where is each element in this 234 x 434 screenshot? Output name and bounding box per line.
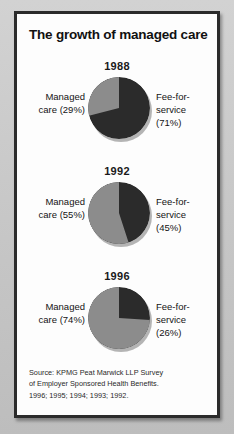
label-line: Managed <box>17 301 85 314</box>
figure-inner: The growth of managed care 1988 Managed … <box>17 14 217 415</box>
label-line: (45%) <box>156 222 217 235</box>
page-title: The growth of managed care <box>29 28 211 43</box>
pie-chart-1988 <box>88 77 150 139</box>
pie-svg-1988 <box>88 77 150 139</box>
pie-label-managed-care-1992: Managed care (55%) <box>17 196 85 222</box>
label-line: care (29%) <box>17 104 85 117</box>
pie-chart-1996 <box>88 287 150 349</box>
pie-label-managed-care-1988: Managed care (29%) <box>17 91 85 117</box>
label-line: service <box>156 104 217 117</box>
label-line: Fee-for- <box>156 301 217 314</box>
label-line: service <box>156 314 217 327</box>
pie-body <box>88 287 150 349</box>
label-line: Fee-for- <box>156 196 217 209</box>
page-background: The growth of managed care 1988 Managed … <box>0 0 234 434</box>
label-line: Managed <box>17 196 85 209</box>
pie-svg-1992 <box>88 182 150 244</box>
pie-panel-1996: 1996 Managed care (74%) Fee-for- <box>17 270 217 374</box>
source-line: of Employer Sponsored Health Benefits. <box>29 378 205 389</box>
pie-label-fee-for-service-1996: Fee-for- service (26%) <box>156 301 217 339</box>
pie-body <box>88 77 150 139</box>
label-line: (26%) <box>156 327 217 340</box>
pie-label-managed-care-1996: Managed care (74%) <box>17 301 85 327</box>
source-note: Source: KPMG Peat Marwick LLP Survey of … <box>29 367 205 401</box>
pie-year-label-1996: 1996 <box>17 270 217 282</box>
pie-panel-1988: 1988 Managed care (29%) Fee-for- <box>17 60 217 164</box>
label-line: care (74%) <box>17 314 85 327</box>
source-line: Source: KPMG Peat Marwick LLP Survey <box>29 367 205 378</box>
figure-frame: The growth of managed care 1988 Managed … <box>14 11 220 418</box>
pie-chart-1992 <box>88 182 150 244</box>
pie-body <box>88 182 150 244</box>
label-line: care (55%) <box>17 209 85 222</box>
pie-label-fee-for-service-1988: Fee-for- service (71%) <box>156 91 217 129</box>
pie-year-label-1992: 1992 <box>17 165 217 177</box>
label-line: (71%) <box>156 117 217 130</box>
pie-panel-1992: 1992 Managed care (55%) Fee-for- <box>17 165 217 269</box>
label-line: Fee-for- <box>156 91 217 104</box>
label-line: Managed <box>17 91 85 104</box>
pie-year-label-1988: 1988 <box>17 60 217 72</box>
pie-svg-1996 <box>88 287 150 349</box>
source-line: 1996; 1995; 1994; 1993; 1992. <box>29 390 205 401</box>
label-line: service <box>156 209 217 222</box>
pie-label-fee-for-service-1992: Fee-for- service (45%) <box>156 196 217 234</box>
